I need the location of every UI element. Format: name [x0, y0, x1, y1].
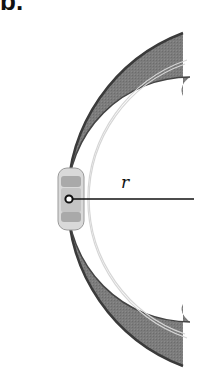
car-rear-window — [61, 212, 81, 222]
radius-label: r — [121, 172, 129, 192]
road — [68, 30, 202, 366]
car-windshield — [61, 176, 81, 187]
road-curve-diagram: b. — [0, 0, 202, 372]
figure-part-label: b. — [0, 0, 23, 17]
diagram-svg — [0, 0, 202, 372]
car-center-point — [65, 195, 72, 202]
